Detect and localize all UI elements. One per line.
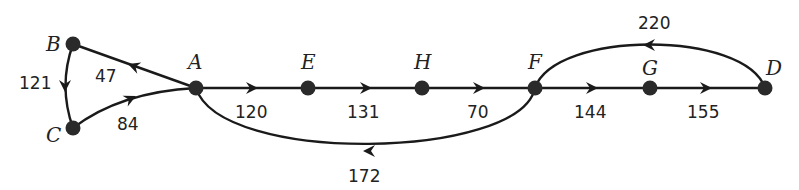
node-d [758, 81, 773, 96]
arrow-a-b-icon [126, 58, 141, 73]
weight-c-a: 84 [117, 114, 139, 134]
node-label-f: F [527, 50, 543, 74]
weight-f-a: 172 [348, 166, 380, 186]
node-e [301, 81, 316, 96]
node-label-d: D [765, 56, 782, 80]
weight-d-f: 220 [638, 13, 670, 33]
weight-h-f: 70 [467, 102, 489, 122]
weight-a-b: 47 [95, 66, 117, 86]
weight-e-h: 131 [347, 102, 379, 122]
node-c [66, 121, 81, 136]
edge-labels: 47 121 84 120 131 70 172 144 155 220 [19, 13, 719, 186]
node-f [528, 81, 543, 96]
edges [59, 39, 765, 157]
weight-f-g: 144 [574, 102, 606, 122]
node-b [66, 37, 81, 52]
weight-a-e: 120 [235, 102, 267, 122]
node-label-h: H [413, 50, 432, 74]
node-label-b: B [45, 32, 61, 56]
node-a [189, 81, 204, 96]
node-label-g: G [642, 56, 658, 80]
node-label-a: A [186, 50, 202, 74]
node-label-c: C [46, 123, 61, 147]
arrow-f-a-icon [363, 145, 375, 157]
node-label-e: E [300, 50, 316, 74]
node-h [415, 81, 430, 96]
graph-diagram: A B C D E F G H 47 121 84 120 131 70 172… [0, 0, 799, 190]
node-g [643, 81, 658, 96]
weight-g-d: 155 [687, 102, 719, 122]
weight-b-c: 121 [19, 73, 51, 93]
node-labels: A B C D E F G H [45, 32, 782, 147]
